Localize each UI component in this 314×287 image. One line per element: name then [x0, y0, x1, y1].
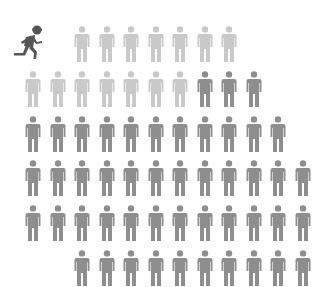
person-icon — [99, 26, 115, 63]
person-icon — [172, 26, 188, 63]
person-icon — [74, 116, 90, 153]
person-icon — [197, 116, 213, 153]
person-icon — [270, 250, 286, 287]
person-icon — [197, 71, 213, 108]
person-icon — [197, 250, 213, 287]
person-icon — [99, 250, 115, 287]
person-icon — [99, 116, 115, 153]
person-icon — [197, 205, 213, 242]
person-icon — [246, 250, 262, 287]
person-icon — [25, 205, 41, 242]
person-icon — [74, 160, 90, 197]
person-icon — [148, 250, 164, 287]
person-icon — [172, 250, 188, 287]
person-icon — [221, 71, 237, 108]
person-icon — [74, 26, 90, 63]
person-icon — [25, 71, 41, 108]
person-icon — [172, 160, 188, 197]
person-icon — [74, 205, 90, 242]
person-icon — [123, 26, 139, 63]
person-icon — [74, 250, 90, 287]
running-person-icon — [10, 24, 48, 62]
person-icon — [50, 160, 66, 197]
person-icon — [172, 71, 188, 108]
person-icon — [221, 205, 237, 242]
person-icon — [50, 205, 66, 242]
person-icon — [197, 160, 213, 197]
person-icon — [50, 71, 66, 108]
person-icon — [123, 71, 139, 108]
person-icon — [246, 71, 262, 108]
person-icon — [172, 116, 188, 153]
person-icon — [148, 71, 164, 108]
person-icon — [246, 160, 262, 197]
person-icon — [148, 116, 164, 153]
person-icon — [99, 160, 115, 197]
person-icon — [221, 116, 237, 153]
person-icon — [221, 26, 237, 63]
person-icon — [50, 116, 66, 153]
person-icon — [148, 26, 164, 63]
person-icon — [123, 160, 139, 197]
person-icon — [148, 205, 164, 242]
person-icon — [99, 205, 115, 242]
person-icon — [270, 116, 286, 153]
person-icon — [25, 116, 41, 153]
person-icon — [197, 26, 213, 63]
person-icon — [295, 160, 311, 197]
person-icon — [172, 205, 188, 242]
person-icon — [99, 71, 115, 108]
person-icon — [123, 250, 139, 287]
person-icon — [295, 250, 311, 287]
person-icon — [270, 205, 286, 242]
person-icon — [246, 205, 262, 242]
person-icon — [123, 116, 139, 153]
person-icon — [148, 160, 164, 197]
person-icon — [221, 160, 237, 197]
person-icon — [123, 205, 139, 242]
person-icon — [246, 116, 262, 153]
person-icon — [295, 205, 311, 242]
person-icon — [74, 71, 90, 108]
person-icon — [25, 160, 41, 197]
person-icon — [270, 160, 286, 197]
person-icon — [221, 250, 237, 287]
